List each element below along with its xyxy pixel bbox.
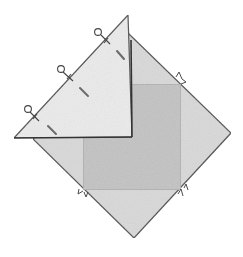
- quilting-diagram: Pencil-style quilting diagram: a square-…: [0, 0, 243, 257]
- folded-triangle: [14, 15, 132, 138]
- diagram-canvas: [0, 0, 243, 257]
- pin-icon: [58, 66, 73, 81]
